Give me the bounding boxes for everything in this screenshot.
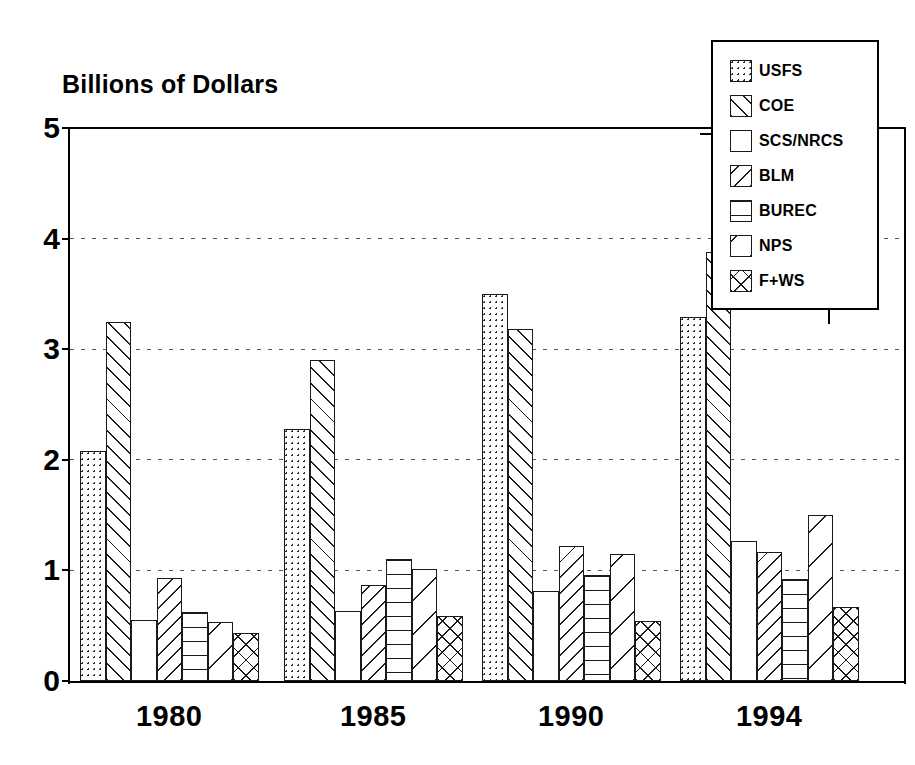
bar-1985-USFS bbox=[284, 429, 310, 681]
legend-item-NPS[interactable]: NPS bbox=[730, 231, 793, 261]
bar-1985-BUREC bbox=[386, 559, 412, 681]
legend-label-USFS: USFS bbox=[759, 62, 802, 80]
bar-1980-NPS bbox=[208, 622, 234, 681]
x-axis-label-1990: 1990 bbox=[491, 700, 651, 733]
bar-1985-NPS bbox=[412, 569, 438, 681]
bar-1980-USFS bbox=[80, 451, 106, 681]
legend-label-COE: COE bbox=[759, 97, 794, 115]
bar-1994-SCS-NRCS bbox=[731, 541, 757, 681]
bar-1980-BLM bbox=[157, 578, 183, 681]
legend-label-BLM: BLM bbox=[759, 167, 794, 185]
legend: USFSCOESCS/NRCSBLMBURECNPSF+WS bbox=[711, 40, 879, 310]
legend-label-F-WS: F+WS bbox=[759, 272, 805, 290]
bar-1994-BLM bbox=[757, 552, 783, 681]
bar-1994-F-WS bbox=[833, 607, 859, 681]
bar-chart: Billions of Dollars 012345 1980198519901… bbox=[0, 0, 915, 765]
legend-label-SCS-NRCS: SCS/NRCS bbox=[759, 132, 843, 150]
legend-item-BLM[interactable]: BLM bbox=[730, 161, 794, 191]
bar-1990-BLM bbox=[559, 546, 585, 681]
bar-1990-F-WS bbox=[635, 621, 661, 681]
bar-1994-USFS bbox=[680, 317, 706, 681]
legend-item-BUREC[interactable]: BUREC bbox=[730, 196, 817, 226]
blank-swatch bbox=[730, 130, 752, 152]
legend-item-F-WS[interactable]: F+WS bbox=[730, 266, 805, 296]
bar-1994-COE bbox=[706, 252, 732, 681]
bar-1985-BLM bbox=[361, 585, 387, 681]
bar-1990-SCS-NRCS bbox=[533, 591, 559, 681]
bar-1985-F-WS bbox=[437, 616, 463, 681]
bar-1990-NPS bbox=[610, 554, 636, 681]
diagonal-back-wide-swatch bbox=[730, 235, 752, 257]
bar-1980-F-WS bbox=[233, 633, 259, 681]
bar-1980-SCS-NRCS bbox=[131, 620, 157, 681]
bar-1994-BUREC bbox=[782, 579, 808, 681]
bar-1994-NPS bbox=[808, 515, 834, 681]
bar-1980-COE bbox=[106, 322, 132, 681]
bar-1985-SCS-NRCS bbox=[335, 611, 361, 681]
legend-label-BUREC: BUREC bbox=[759, 202, 817, 220]
legend-label-NPS: NPS bbox=[759, 237, 793, 255]
horizontal-swatch bbox=[730, 200, 752, 222]
x-axis-label-1980: 1980 bbox=[89, 700, 249, 733]
bar-1990-USFS bbox=[482, 294, 508, 681]
dots-swatch bbox=[730, 60, 752, 82]
legend-item-USFS[interactable]: USFS bbox=[730, 56, 802, 86]
legend-item-SCS-NRCS[interactable]: SCS/NRCS bbox=[730, 126, 843, 156]
diagonal-forward-swatch bbox=[730, 95, 752, 117]
legend-item-COE[interactable]: COE bbox=[730, 91, 794, 121]
x-axis-label-1985: 1985 bbox=[293, 700, 453, 733]
bar-1990-BUREC bbox=[584, 575, 610, 681]
crosshatch-swatch bbox=[730, 270, 752, 292]
x-axis-label-1994: 1994 bbox=[689, 700, 849, 733]
diagonal-back-swatch bbox=[730, 165, 752, 187]
legend-leader-bottom bbox=[828, 310, 830, 324]
bar-1980-BUREC bbox=[182, 612, 208, 681]
bar-1990-COE bbox=[508, 329, 534, 681]
bar-1985-COE bbox=[310, 360, 336, 681]
